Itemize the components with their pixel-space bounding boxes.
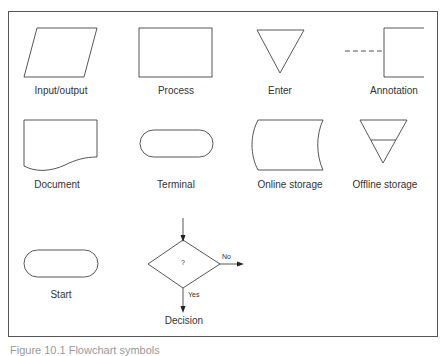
process-shape <box>139 28 212 77</box>
enter-shape <box>257 30 304 73</box>
terminal-shape <box>140 130 213 157</box>
enter-label: Enter <box>268 85 292 96</box>
decision-shape <box>148 218 244 313</box>
annotation-shape <box>345 28 424 77</box>
start-label: Start <box>50 289 71 300</box>
online-storage-label: Online storage <box>257 179 322 190</box>
annotation-label: Annotation <box>370 85 418 96</box>
start-shape <box>24 250 98 277</box>
process-label: Process <box>158 85 194 96</box>
document-label: Document <box>34 179 80 190</box>
offline-storage-shape <box>360 120 407 163</box>
offline-storage-label: Offline storage <box>353 179 418 190</box>
online-storage-shape <box>252 120 323 170</box>
input-output-label: Input/output <box>35 85 88 96</box>
decision-no-label: No <box>222 253 231 260</box>
input-output-shape <box>24 28 97 77</box>
decision-label: Decision <box>165 315 203 326</box>
decision-question: ? <box>181 259 185 266</box>
figure-caption: Figure 10.1 Flowchart symbols <box>10 344 160 356</box>
decision-yes-label: Yes <box>188 291 199 298</box>
terminal-label: Terminal <box>157 179 195 190</box>
document-shape <box>24 120 97 170</box>
